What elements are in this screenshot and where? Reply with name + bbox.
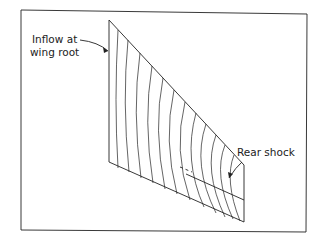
rear-shock-line — [186, 174, 244, 200]
rear-shock-label: Rear shock — [237, 147, 295, 158]
inflow-label-line2: wing root — [30, 47, 79, 58]
rear-shock-dashed — [180, 167, 192, 172]
inflow-label-line1: Inflow at — [32, 34, 77, 45]
